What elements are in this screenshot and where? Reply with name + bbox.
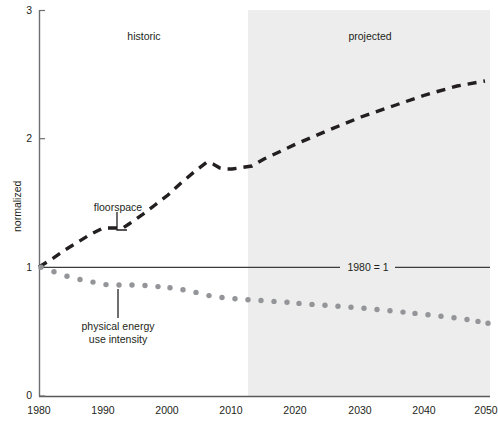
region-label-projected: projected (330, 30, 410, 42)
ytick-label-0: 0 (18, 389, 32, 401)
ytick-label-1: 1 (18, 261, 32, 273)
ytick-label-2: 2 (18, 132, 32, 144)
xtick-label-1980: 1980 (19, 404, 59, 416)
intensity-label-line-1: physical energy (82, 320, 155, 332)
region-label-historic: historic (104, 30, 184, 42)
xtick-label-2030: 2030 (340, 404, 380, 416)
xtick-label-2000: 2000 (147, 404, 187, 416)
xtick-label-2050: 2050 (466, 404, 498, 416)
figure-container: 3 2 1 0 normalized 1980 1990 2000 2010 2… (0, 0, 498, 436)
y-axis-title: normalized (11, 181, 23, 232)
chart-plot-area (0, 0, 498, 436)
ytick-label-3: 3 (18, 4, 32, 16)
xtick-label-1990: 1990 (83, 404, 123, 416)
intensity-label-line-2: use intensity (89, 333, 147, 345)
reference-line-label: 1980 = 1 (338, 261, 398, 273)
xtick-label-2020: 2020 (275, 404, 315, 416)
xtick-label-2040: 2040 (404, 404, 444, 416)
series-label-energy-intensity: physical energy use intensity (62, 320, 174, 345)
projected-shaded-region (248, 10, 490, 396)
figure-caption (2, 428, 496, 436)
series-label-floorspace: floorspace (78, 201, 158, 214)
xtick-label-2010: 2010 (211, 404, 251, 416)
